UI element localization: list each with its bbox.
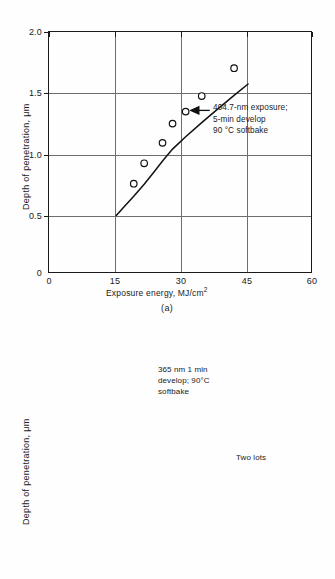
panel-a-data-overlay — [49, 32, 311, 272]
panel-a-point — [231, 65, 238, 72]
panel-a-x-axis-title-text: Exposure energy, MJ/cm — [106, 288, 204, 298]
panel-a-xlabel-60: 60 — [307, 276, 317, 286]
panel-a-xlabel-45: 45 — [242, 276, 252, 286]
panel-a-point — [169, 120, 176, 127]
panel-a-xlabel-30: 30 — [176, 276, 186, 286]
panel-a-x-axis-title-sup: 2 — [204, 286, 208, 293]
panel-a-caption: (a) — [161, 303, 173, 313]
panel-b-annotation: 365 nm 1 min develop; 90°C softbake — [158, 364, 210, 397]
panel-a-xlabel-15: 15 — [110, 276, 120, 286]
panel-a-point — [130, 180, 137, 187]
panel-a-point — [198, 93, 205, 100]
panel-a-ylabel-0: 0 — [37, 268, 42, 278]
panel-a-annotation: 404.7-nm exposure; 5-min develop 90 °C s… — [213, 102, 288, 137]
panel-b-two-lots-label: Two lots — [236, 452, 266, 463]
panel-a-ylabel-2.0: 2.0 — [29, 27, 42, 37]
chart-panel-b: 2.0 1.5 1.0 0.5 — [0, 320, 335, 579]
panel-a-xtick-60 — [312, 32, 313, 37]
panel-a-plot-area: 2.0 1.5 1.0 0.5 0 0 15 30 45 60 — [49, 32, 311, 272]
panel-a-plot-frame: 2.0 1.5 1.0 0.5 0 0 15 30 45 60 — [48, 31, 312, 273]
panel-a-ylabel-1.5: 1.5 — [29, 88, 42, 98]
panel-a-y-axis-title: Depth of penetration, μm — [21, 104, 31, 210]
panel-a-point — [182, 108, 189, 115]
panel-b-y-axis-title: Depth of penetration, μm — [21, 419, 31, 525]
panel-a-x-axis-title: Exposure energy, MJ/cm2 — [106, 286, 208, 298]
panel-a-ylabel-0.5: 0.5 — [29, 211, 42, 221]
chart-panel-a: 2.0 1.5 1.0 0.5 0 0 15 30 45 60 — [0, 0, 335, 320]
panel-a-point — [141, 160, 148, 167]
figure-page: 2.0 1.5 1.0 0.5 0 0 15 30 45 60 — [0, 0, 335, 579]
panel-a-xlabel-0: 0 — [46, 276, 51, 286]
panel-a-annotation-arrow-icon — [191, 107, 210, 114]
panel-a-point — [159, 140, 166, 147]
